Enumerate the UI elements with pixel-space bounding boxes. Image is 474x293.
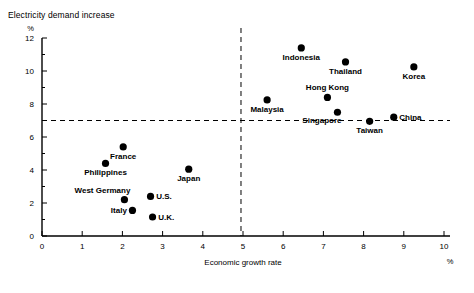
data-point-china [390, 114, 397, 121]
data-point-thailand [342, 58, 349, 65]
axis-text-layer: 012345678910024681012%%Economic growth r… [25, 24, 454, 267]
data-label-singapore: Singapore [302, 116, 342, 125]
x-tick-label-0: 0 [40, 242, 45, 251]
scatter-plot-canvas: 012345678910024681012%%Economic growth r… [0, 0, 474, 293]
reference-lines-layer [42, 28, 450, 236]
y-tick-label-12: 12 [25, 34, 34, 43]
y-tick-label-8: 8 [30, 100, 35, 109]
data-point-philippines [102, 160, 109, 167]
y-tick-label-2: 2 [30, 199, 35, 208]
data-point-u-k- [149, 213, 156, 220]
x-tick-label-7: 7 [321, 242, 326, 251]
data-label-west-germany: West Germany [75, 186, 131, 195]
chart-figure: Electricity demand increase 012345678910… [0, 0, 474, 293]
axes-layer [42, 38, 450, 236]
x-tick-label-2: 2 [120, 242, 125, 251]
data-label-u-k-: U.K. [158, 213, 174, 222]
data-label-france: France [110, 152, 137, 161]
data-point-italy [129, 207, 136, 214]
x-tick-label-1: 1 [80, 242, 85, 251]
y-tick-label-4: 4 [30, 166, 35, 175]
data-label-korea: Korea [403, 72, 426, 81]
data-point-u-s- [147, 193, 154, 200]
data-point-korea [410, 63, 417, 70]
x-tick-label-6: 6 [281, 242, 286, 251]
data-label-japan: Japan [177, 174, 200, 183]
data-label-indonesia: Indonesia [283, 53, 321, 62]
x-tick-label-4: 4 [201, 242, 206, 251]
x-axis-unit-label: % [447, 257, 454, 266]
data-label-hong-kong: Hong Kong [306, 83, 349, 92]
x-tick-label-8: 8 [361, 242, 366, 251]
data-point-west-germany [121, 196, 128, 203]
x-tick-label-10: 10 [440, 242, 449, 251]
y-tick-label-6: 6 [30, 133, 35, 142]
data-label-taiwan: Taiwan [356, 126, 383, 135]
x-tick-label-3: 3 [160, 242, 165, 251]
data-label-u-s-: U.S. [156, 192, 172, 201]
data-point-malaysia [264, 96, 271, 103]
data-label-china: China [399, 113, 422, 122]
data-label-italy: Italy [111, 206, 128, 215]
data-point-france [120, 143, 127, 150]
y-axis-unit-label: % [27, 24, 34, 33]
data-label-malaysia: Malaysia [250, 105, 284, 114]
y-tick-label-0: 0 [30, 232, 35, 241]
data-point-hong-kong [324, 94, 331, 101]
x-axis-title: Economic growth rate [204, 258, 282, 267]
data-point-japan [185, 166, 192, 173]
x-tick-label-5: 5 [241, 242, 246, 251]
data-point-singapore [334, 109, 341, 116]
data-point-indonesia [298, 44, 305, 51]
data-label-philippines: Philippines [84, 168, 127, 177]
x-tick-label-9: 9 [402, 242, 407, 251]
data-label-thailand: Thailand [329, 67, 362, 76]
y-tick-label-10: 10 [25, 67, 34, 76]
data-point-taiwan [366, 118, 373, 125]
